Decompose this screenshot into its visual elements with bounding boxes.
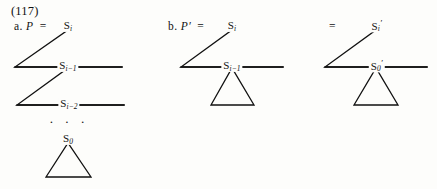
panel-c-node-root: Si′ bbox=[370, 19, 385, 32]
node-subscript: i bbox=[378, 24, 380, 33]
figure-root: (117) a. P = Si Si−1 Si−2 · · · S0 b. P′… bbox=[0, 0, 437, 189]
node-prime: ′ bbox=[380, 18, 382, 28]
panel-c-node-second: S0′ bbox=[369, 59, 385, 72]
node-prime: ′ bbox=[381, 58, 383, 68]
